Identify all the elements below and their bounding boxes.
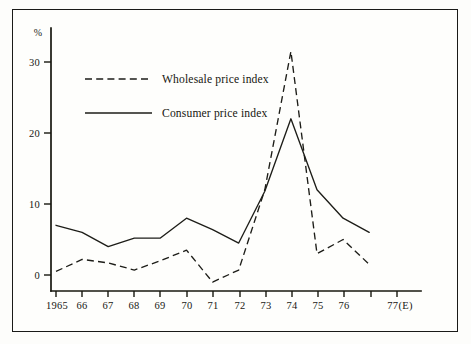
x-tick-label-69: 69 [154,300,165,311]
y-axis-unit-label: % [34,27,42,38]
x-tick-label-76: 76 [338,300,349,311]
x-tick-label-66: 66 [76,300,87,311]
x-tick-label-68: 68 [128,300,139,311]
y-tick-label-30: 30 [29,57,40,68]
y-axis-ticks [44,62,51,275]
series-consumer-price-index [56,119,369,247]
line-chart-plot: % 30 20 10 0 1965 66 67 68 69 70 71 72 7… [0,0,471,344]
chart-figure: % 30 20 10 0 1965 66 67 68 69 70 71 72 7… [0,0,471,344]
x-tick-label-72: 72 [234,300,245,311]
y-tick-label-10: 10 [29,199,40,210]
x-tick-label-75: 75 [312,300,323,311]
x-tick-label-74: 74 [286,300,298,311]
y-tick-label-20: 20 [29,128,40,139]
x-axis-ticks [56,291,397,297]
x-tick-label-1965: 1965 [46,300,68,311]
y-tick-label-0: 0 [34,270,40,281]
x-tick-label-73: 73 [260,300,271,311]
x-tick-label-71: 71 [207,300,218,311]
legend-label-consumer: Consumer price index [162,107,267,120]
x-tick-label-77E: 77(E) [387,300,413,312]
chart-legend: Wholesale price index Consumer price ind… [85,73,269,120]
x-tick-label-67: 67 [102,300,113,311]
x-tick-label-70: 70 [181,300,192,311]
legend-label-wholesale: Wholesale price index [162,73,269,86]
